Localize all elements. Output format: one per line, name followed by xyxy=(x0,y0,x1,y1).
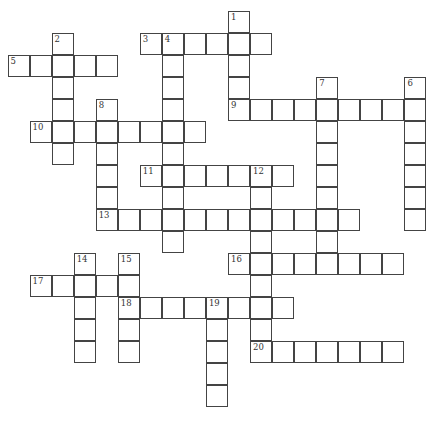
crossword-cell[interactable] xyxy=(250,319,272,341)
crossword-cell[interactable] xyxy=(338,99,360,121)
crossword-cell[interactable] xyxy=(250,275,272,297)
crossword-cell[interactable] xyxy=(206,33,228,55)
crossword-cell[interactable] xyxy=(118,275,140,297)
crossword-cell[interactable]: 14 xyxy=(74,253,96,275)
crossword-cell[interactable] xyxy=(316,121,338,143)
crossword-cell[interactable] xyxy=(382,99,404,121)
crossword-cell[interactable] xyxy=(162,209,184,231)
crossword-cell[interactable] xyxy=(206,385,228,407)
crossword-cell[interactable] xyxy=(272,209,294,231)
crossword-cell[interactable]: 8 xyxy=(96,99,118,121)
crossword-cell[interactable] xyxy=(228,55,250,77)
crossword-cell[interactable] xyxy=(162,165,184,187)
crossword-cell[interactable] xyxy=(96,165,118,187)
crossword-cell[interactable] xyxy=(250,187,272,209)
crossword-cell[interactable] xyxy=(162,297,184,319)
crossword-cell[interactable] xyxy=(184,209,206,231)
crossword-cell[interactable] xyxy=(74,319,96,341)
crossword-cell[interactable] xyxy=(52,275,74,297)
crossword-cell[interactable] xyxy=(404,121,426,143)
crossword-cell[interactable] xyxy=(250,209,272,231)
crossword-cell[interactable] xyxy=(228,77,250,99)
crossword-cell[interactable] xyxy=(404,143,426,165)
crossword-cell[interactable] xyxy=(162,55,184,77)
crossword-cell[interactable] xyxy=(74,275,96,297)
crossword-cell[interactable] xyxy=(228,297,250,319)
crossword-cell[interactable]: 6 xyxy=(404,77,426,99)
crossword-cell[interactable] xyxy=(96,187,118,209)
crossword-cell[interactable] xyxy=(118,341,140,363)
crossword-cell[interactable] xyxy=(382,341,404,363)
crossword-cell[interactable] xyxy=(360,341,382,363)
crossword-cell[interactable] xyxy=(52,121,74,143)
crossword-cell[interactable] xyxy=(52,99,74,121)
crossword-cell[interactable] xyxy=(118,121,140,143)
crossword-cell[interactable] xyxy=(162,143,184,165)
crossword-cell[interactable] xyxy=(250,297,272,319)
crossword-cell[interactable]: 4 xyxy=(162,33,184,55)
crossword-cell[interactable] xyxy=(96,275,118,297)
crossword-cell[interactable] xyxy=(228,33,250,55)
crossword-cell[interactable] xyxy=(52,55,74,77)
crossword-cell[interactable] xyxy=(316,165,338,187)
crossword-cell[interactable] xyxy=(184,121,206,143)
crossword-cell[interactable] xyxy=(96,55,118,77)
crossword-cell[interactable] xyxy=(206,341,228,363)
crossword-cell[interactable] xyxy=(206,319,228,341)
crossword-cell[interactable] xyxy=(162,99,184,121)
crossword-cell[interactable] xyxy=(162,187,184,209)
crossword-cell[interactable] xyxy=(294,99,316,121)
crossword-cell[interactable] xyxy=(272,99,294,121)
crossword-cell[interactable] xyxy=(74,341,96,363)
crossword-cell[interactable] xyxy=(338,209,360,231)
crossword-cell[interactable]: 11 xyxy=(140,165,162,187)
crossword-cell[interactable] xyxy=(272,341,294,363)
crossword-cell[interactable] xyxy=(118,209,140,231)
crossword-cell[interactable] xyxy=(140,121,162,143)
crossword-cell[interactable] xyxy=(294,341,316,363)
crossword-cell[interactable] xyxy=(404,209,426,231)
crossword-cell[interactable] xyxy=(184,165,206,187)
crossword-cell[interactable] xyxy=(404,187,426,209)
crossword-cell[interactable] xyxy=(52,77,74,99)
crossword-cell[interactable]: 3 xyxy=(140,33,162,55)
crossword-cell[interactable] xyxy=(140,209,162,231)
crossword-cell[interactable]: 1 xyxy=(228,11,250,33)
crossword-cell[interactable] xyxy=(96,121,118,143)
crossword-cell[interactable] xyxy=(52,143,74,165)
crossword-cell[interactable] xyxy=(272,253,294,275)
crossword-cell[interactable]: 13 xyxy=(96,209,118,231)
crossword-cell[interactable] xyxy=(316,143,338,165)
crossword-cell[interactable] xyxy=(404,165,426,187)
crossword-cell[interactable] xyxy=(316,99,338,121)
crossword-cell[interactable]: 15 xyxy=(118,253,140,275)
crossword-cell[interactable] xyxy=(316,209,338,231)
crossword-cell[interactable]: 19 xyxy=(206,297,228,319)
crossword-cell[interactable] xyxy=(272,165,294,187)
crossword-cell[interactable] xyxy=(140,297,162,319)
crossword-cell[interactable]: 16 xyxy=(228,253,250,275)
crossword-cell[interactable] xyxy=(250,253,272,275)
crossword-cell[interactable] xyxy=(162,231,184,253)
crossword-cell[interactable] xyxy=(250,99,272,121)
crossword-cell[interactable]: 5 xyxy=(8,55,30,77)
crossword-cell[interactable] xyxy=(294,253,316,275)
crossword-cell[interactable] xyxy=(360,253,382,275)
crossword-cell[interactable] xyxy=(360,99,382,121)
crossword-cell[interactable] xyxy=(74,121,96,143)
crossword-cell[interactable] xyxy=(338,341,360,363)
crossword-cell[interactable] xyxy=(316,187,338,209)
crossword-cell[interactable] xyxy=(316,341,338,363)
crossword-cell[interactable]: 10 xyxy=(30,121,52,143)
crossword-cell[interactable]: 9 xyxy=(228,99,250,121)
crossword-cell[interactable] xyxy=(316,231,338,253)
crossword-cell[interactable] xyxy=(162,77,184,99)
crossword-cell[interactable] xyxy=(74,297,96,319)
crossword-cell[interactable] xyxy=(118,319,140,341)
crossword-cell[interactable] xyxy=(250,33,272,55)
crossword-cell[interactable]: 7 xyxy=(316,77,338,99)
crossword-cell[interactable] xyxy=(30,55,52,77)
crossword-cell[interactable] xyxy=(184,33,206,55)
crossword-cell[interactable] xyxy=(294,209,316,231)
crossword-cell[interactable] xyxy=(404,99,426,121)
